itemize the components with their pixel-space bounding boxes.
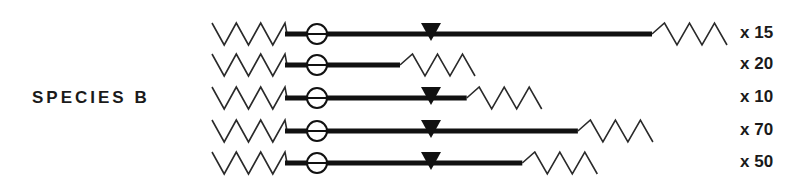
molecule-row [212,87,542,109]
left-zigzag-segment [212,87,287,109]
molecule-row [212,23,727,45]
count-label: x 15 [740,23,773,43]
right-zigzag-segment [400,54,475,76]
count-label: x 50 [740,152,773,172]
left-zigzag-segment [212,23,287,45]
right-zigzag-segment [522,152,597,174]
molecule-diagram [0,0,808,189]
count-label: x 20 [740,54,773,74]
molecule-row [212,54,475,76]
count-label: x 10 [740,87,773,107]
left-zigzag-segment [212,120,287,142]
molecule-row [212,120,653,142]
molecule-row [212,152,597,174]
left-zigzag-segment [212,54,287,76]
count-label: x 70 [740,120,773,140]
right-zigzag-segment [578,120,653,142]
left-zigzag-segment [212,152,287,174]
right-zigzag-segment [467,87,542,109]
right-zigzag-segment [652,23,727,45]
